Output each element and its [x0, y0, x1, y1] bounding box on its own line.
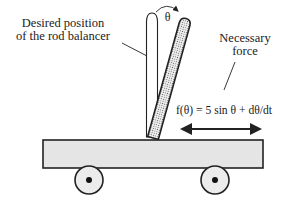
arrow-right-head — [250, 123, 262, 135]
rod-balancer-diagram: Desired position of the rod balancer θ N… — [0, 0, 287, 206]
desired-position-label: Desired position of the rod balancer — [16, 16, 111, 43]
axle-left — [86, 177, 92, 183]
arrow-left-head — [180, 123, 192, 135]
force-formula: f(θ) = 5 sin θ + dθ/dt — [176, 104, 273, 117]
wheel-left — [75, 166, 103, 194]
wheel-right — [201, 166, 229, 194]
necessary-label-line2: force — [232, 44, 258, 58]
desired-label-line1: Desired position — [22, 16, 105, 30]
necessary-leader-line — [224, 62, 235, 90]
force-arrow — [180, 123, 262, 135]
necessary-label-line1: Necessary — [219, 31, 271, 45]
desired-leader-line — [122, 43, 147, 56]
axle-right — [212, 177, 218, 183]
theta-label: θ — [165, 10, 171, 24]
cart-platform — [43, 140, 263, 168]
desired-label-line2: of the rod balancer — [16, 29, 111, 43]
necessary-force-label: Necessary force — [219, 31, 271, 58]
